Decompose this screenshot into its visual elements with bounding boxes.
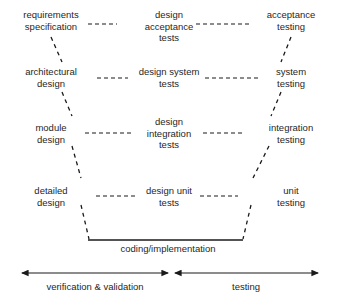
node-coding-implementation: coding/implementation [106,243,230,254]
node-acceptance-testing: acceptance testing [252,9,330,32]
v-arm-left-segment-4 [81,205,89,239]
node-design-system-tests: design system tests [123,66,215,89]
node-design-unit-tests: design unit tests [123,185,215,208]
node-system-testing: system testing [252,66,330,89]
axis-label-testing: testing [174,281,318,292]
node-architectural-design: architectural design [8,66,94,89]
v-arm-right-segment-1 [281,37,291,62]
diagram-lines-layer [0,0,338,307]
v-arm-right-segment-3 [253,146,269,178]
v-arm-right-segment-2 [271,92,281,116]
node-design-integration-tests: design integration tests [123,116,215,151]
v-arm-left-segment-2 [62,92,72,116]
node-design-acceptance-tests: design acceptance tests [123,9,215,44]
v-arm-left-segment-3 [72,146,81,178]
v-model-diagram: requirements specification design accept… [0,0,338,307]
axis-label-verification-validation: verification & validation [22,281,168,292]
v-arm-left-segment-1 [51,37,62,62]
node-integration-testing: integration testing [252,122,330,145]
node-module-design: module design [8,122,94,145]
v-arm-right-segment-4 [243,205,251,239]
node-requirements-specification: requirements specification [8,9,94,32]
node-detailed-design: detailed design [8,185,94,208]
node-unit-testing: unit testing [252,185,330,208]
